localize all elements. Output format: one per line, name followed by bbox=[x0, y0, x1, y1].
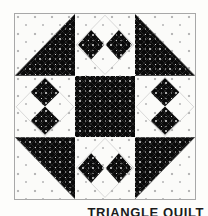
quilt-block-grid bbox=[15, 14, 195, 199]
dark-square-patch bbox=[75, 76, 135, 138]
block-cell-middle-left bbox=[15, 76, 75, 138]
block-cell-top-left bbox=[15, 14, 75, 76]
block-caption: TRIANGLE QUILT bbox=[0, 205, 208, 216]
block-cell-middle-center bbox=[75, 76, 135, 138]
block-cell-top-center bbox=[75, 14, 135, 76]
block-cell-middle-right bbox=[135, 76, 195, 138]
block-cell-top-right bbox=[135, 14, 195, 76]
block-cell-bottom-left bbox=[15, 137, 75, 199]
block-cell-bottom-center bbox=[75, 137, 135, 199]
quilt-block-image: TRIANGLE QUILT bbox=[0, 0, 208, 216]
block-cell-bottom-right bbox=[135, 137, 195, 199]
quilt-block-frame bbox=[14, 13, 196, 200]
